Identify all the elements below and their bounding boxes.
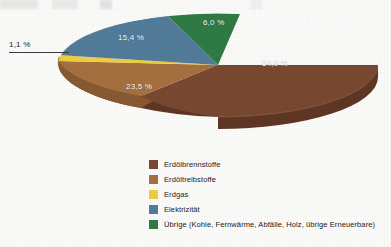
legend-label-uebrige: Übrige (Kohle, Fernwärme, Abfälle, Holz,… bbox=[164, 220, 375, 229]
legend-swatch-uebrige bbox=[149, 220, 158, 229]
pie-chart-svg bbox=[0, 6, 391, 134]
slice-label-erdgas: 1,1 % bbox=[9, 40, 30, 49]
legend-item-elektrizitaet[interactable]: Elektrizität bbox=[149, 202, 389, 216]
legend-label-erdoelbrennstoffe: Erdölbrennstoffe bbox=[164, 160, 221, 169]
legend-item-uebrige[interactable]: Übrige (Kohle, Fernwärme, Abfälle, Holz,… bbox=[149, 217, 389, 231]
slice-label-erdoeltreibstoffe: 23,5 % bbox=[126, 82, 152, 91]
legend-swatch-erdgas bbox=[149, 190, 158, 199]
legend-item-erdgas[interactable]: Erdgas bbox=[149, 187, 389, 201]
chart-page: 54,0 % 23,5 % 15,4 % 6,0 % 1,1 % Erdölbr… bbox=[0, 0, 391, 247]
legend-swatch-erdoelbrennstoffe bbox=[149, 160, 158, 169]
legend-swatch-elektrizitaet bbox=[149, 205, 158, 214]
slice-label-uebrige: 6,0 % bbox=[203, 18, 224, 27]
slice-label-erdoelbrennstoffe: 54,0 % bbox=[262, 59, 288, 68]
legend-label-erdgas: Erdgas bbox=[164, 190, 188, 199]
legend-label-erdoeltreibstoffe: Erdöltreibstoffe bbox=[164, 175, 216, 184]
legend-swatch-erdoeltreibstoffe bbox=[149, 175, 158, 184]
pie-top-faces bbox=[58, 13, 378, 117]
pie-chart: 54,0 % 23,5 % 15,4 % 6,0 % bbox=[0, 6, 391, 134]
legend-item-erdoeltreibstoffe[interactable]: Erdöltreibstoffe bbox=[149, 172, 389, 186]
legend-label-elektrizitaet: Elektrizität bbox=[164, 205, 200, 214]
chart-legend: Erdölbrennstoffe Erdöltreibstoffe Erdgas… bbox=[149, 157, 389, 232]
legend-item-erdoelbrennstoffe[interactable]: Erdölbrennstoffe bbox=[149, 157, 389, 171]
slice-label-elektrizitaet: 15,4 % bbox=[118, 33, 144, 42]
leader-line-erdgas bbox=[9, 52, 69, 53]
